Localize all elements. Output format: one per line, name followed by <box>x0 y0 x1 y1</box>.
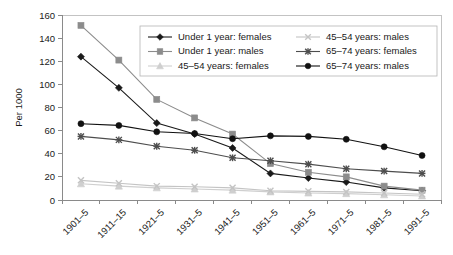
y-tick-label: 40 <box>44 148 55 159</box>
data-point-star <box>419 170 426 177</box>
x-axis: 1901–51911–151921–51931–51941–51951–5196… <box>60 200 441 240</box>
series-line <box>81 124 422 156</box>
data-point-square <box>154 96 160 102</box>
x-tick-label: 1971–5 <box>325 207 355 237</box>
data-point-star <box>343 165 350 172</box>
data-point-circle <box>78 121 84 127</box>
data-point-star <box>115 136 122 143</box>
y-tick-label: 80 <box>44 102 55 113</box>
data-point-square <box>116 57 122 63</box>
y-axis-title: Per 1000 <box>13 88 24 127</box>
data-point-star <box>305 161 312 168</box>
data-point-star <box>191 147 198 154</box>
data-point-circle <box>192 131 198 137</box>
data-point-square <box>381 183 387 189</box>
x-tick-label: 1941–5 <box>212 207 242 237</box>
data-point-square <box>157 49 163 55</box>
chart-container: 020406080100120140160Per 10001901–51911–… <box>0 0 453 255</box>
data-point-circle <box>267 133 273 139</box>
x-tick-label: 1911–15 <box>95 207 128 240</box>
legend-item-label: Under 1 year: females <box>178 31 272 42</box>
data-point-circle <box>305 133 311 139</box>
data-point-circle <box>419 152 425 158</box>
data-point-square <box>305 169 311 175</box>
data-point-star <box>381 168 388 175</box>
data-point-star <box>153 143 160 150</box>
x-tick-label: 1921–5 <box>136 207 166 237</box>
data-point-star <box>229 154 236 161</box>
data-point-circle <box>230 136 236 142</box>
data-point-circle <box>116 122 122 128</box>
x-tick-label: 1951–5 <box>250 207 280 237</box>
line-chart: 020406080100120140160Per 10001901–51911–… <box>0 0 453 255</box>
series-line <box>81 136 422 173</box>
y-axis: 020406080100120140160 <box>39 10 62 206</box>
x-tick-label: 1961–5 <box>288 207 318 237</box>
series-5 <box>78 133 426 177</box>
x-tick-label: 1981–5 <box>363 207 393 237</box>
data-point-star <box>267 157 274 164</box>
data-point-square <box>192 115 198 121</box>
legend-item-label: 65–74 years: females <box>326 45 417 56</box>
data-point-square <box>78 22 84 28</box>
data-point-diamond <box>229 144 236 151</box>
data-point-diamond <box>305 175 312 182</box>
legend-item-label: 45–54 years: males <box>326 31 409 42</box>
series-6 <box>78 121 425 159</box>
x-tick-label: 1991–5 <box>401 207 431 237</box>
y-tick-label: 60 <box>44 125 55 136</box>
y-tick-label: 0 <box>50 195 55 206</box>
data-point-circle <box>381 144 387 150</box>
y-tick-label: 160 <box>39 10 55 21</box>
data-point-circle <box>154 129 160 135</box>
x-tick-label: 1901–5 <box>60 207 90 237</box>
legend-item-label: Under 1 year: males <box>178 45 264 56</box>
data-point-circle <box>305 63 311 69</box>
y-tick-label: 100 <box>39 79 55 90</box>
y-tick-label: 140 <box>39 33 55 44</box>
data-point-square <box>343 174 349 180</box>
data-point-circle <box>343 136 349 142</box>
data-point-diamond <box>267 170 274 177</box>
legend-item-label: 65–74 years: males <box>326 60 409 71</box>
data-point-star <box>78 133 85 140</box>
legend-item-label: 45–54 years: females <box>178 60 269 71</box>
y-tick-label: 20 <box>44 171 55 182</box>
legend: Under 1 year: femalesUnder 1 year: males… <box>140 26 437 76</box>
y-tick-label: 120 <box>39 56 55 67</box>
data-point-star <box>305 48 311 54</box>
x-tick-label: 1931–5 <box>174 207 204 237</box>
